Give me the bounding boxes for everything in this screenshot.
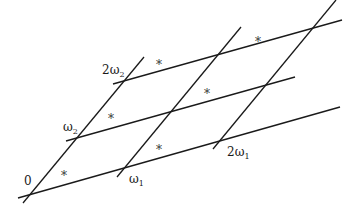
label-omega2: ω2 xyxy=(63,120,78,136)
label-omega1: ω1 xyxy=(129,172,144,188)
star-4: * xyxy=(156,58,162,72)
label-2omega2: 2ω2 xyxy=(102,63,125,79)
star-2: * xyxy=(108,112,114,126)
star-1: * xyxy=(61,169,67,183)
star-5: * xyxy=(204,87,210,101)
lattice-diagram: * * * * * * 0 ω1 ω2 2ω1 2ω2 xyxy=(0,0,353,214)
label-2omega1: 2ω1 xyxy=(227,145,250,161)
star-6: * xyxy=(255,35,261,49)
col-line-2 xyxy=(213,0,336,149)
label-origin: 0 xyxy=(24,174,32,188)
col-line-0 xyxy=(23,57,144,203)
row-line-2 xyxy=(113,20,342,84)
col-line-1 xyxy=(117,27,241,177)
star-3: * xyxy=(156,143,162,157)
